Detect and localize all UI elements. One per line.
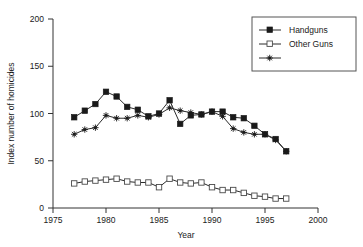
data-point bbox=[92, 124, 98, 130]
data-point bbox=[167, 98, 172, 103]
y-tick-label-200: 200 bbox=[30, 14, 44, 24]
data-point bbox=[283, 148, 289, 154]
data-point bbox=[82, 179, 87, 184]
data-point bbox=[177, 107, 183, 113]
data-point bbox=[251, 131, 257, 137]
data-point bbox=[82, 108, 87, 113]
y-tick-label-50: 50 bbox=[35, 156, 45, 166]
data-point bbox=[114, 176, 119, 181]
y-tick-label-150: 150 bbox=[30, 61, 44, 71]
data-point bbox=[72, 115, 77, 120]
star-icon bbox=[267, 55, 273, 61]
data-point bbox=[252, 193, 257, 198]
series-handguns bbox=[72, 89, 289, 154]
data-point bbox=[145, 114, 151, 120]
y-tick-label-0: 0 bbox=[39, 203, 44, 213]
data-point bbox=[188, 109, 194, 115]
data-point bbox=[178, 121, 183, 126]
open-square-icon bbox=[267, 41, 272, 46]
data-point bbox=[156, 111, 162, 117]
data-point bbox=[231, 115, 236, 120]
x-tick-label-1995: 1995 bbox=[256, 215, 275, 225]
y-axis-title: Index number of homicides bbox=[6, 62, 16, 164]
series-other-guns bbox=[72, 176, 289, 201]
x-tick-label-1990: 1990 bbox=[203, 215, 222, 225]
data-point bbox=[284, 196, 289, 201]
data-point bbox=[209, 185, 214, 190]
x-tick-label-1980: 1980 bbox=[97, 215, 116, 225]
x-tick-label-1985: 1985 bbox=[150, 215, 169, 225]
y-ticks-group: 200 150 100 50 0 bbox=[30, 14, 53, 213]
y-tick-label-100: 100 bbox=[30, 109, 44, 119]
data-point bbox=[272, 137, 278, 143]
data-point bbox=[124, 115, 130, 121]
data-point bbox=[241, 116, 246, 121]
data-point bbox=[273, 196, 278, 201]
data-point bbox=[188, 181, 193, 186]
data-point bbox=[241, 129, 247, 135]
data-point bbox=[198, 111, 204, 117]
data-point bbox=[93, 178, 98, 183]
data-point bbox=[146, 180, 151, 185]
line-chart: 200 150 100 50 0 1975 1980 1985 1990 199… bbox=[0, 0, 363, 247]
data-point bbox=[252, 123, 257, 128]
legend: Handguns Other Guns bbox=[252, 17, 356, 71]
data-point bbox=[72, 181, 77, 186]
data-point bbox=[241, 190, 246, 195]
x-ticks-group: 1975 1980 1985 1990 1995 2000 bbox=[44, 208, 328, 225]
data-point bbox=[135, 112, 141, 118]
data-point bbox=[166, 105, 172, 111]
x-tick-label-1975: 1975 bbox=[44, 215, 63, 225]
filled-square-icon bbox=[267, 27, 272, 32]
data-point bbox=[219, 113, 225, 119]
data-point bbox=[178, 180, 183, 185]
data-point bbox=[125, 179, 130, 184]
data-point bbox=[209, 108, 215, 114]
data-point bbox=[103, 177, 108, 182]
data-point bbox=[114, 94, 119, 99]
data-point bbox=[113, 115, 119, 121]
data-point bbox=[71, 131, 77, 137]
data-point bbox=[230, 125, 236, 131]
data-series-layer bbox=[71, 89, 289, 201]
legend-label-other-guns: Other Guns bbox=[289, 39, 333, 49]
data-point bbox=[82, 126, 88, 132]
data-point bbox=[262, 194, 267, 199]
data-point bbox=[220, 187, 225, 192]
data-point bbox=[167, 176, 172, 181]
chart-container: 200 150 100 50 0 1975 1980 1985 1990 199… bbox=[0, 0, 363, 247]
data-point bbox=[156, 185, 161, 190]
series-non-guns bbox=[71, 105, 289, 155]
x-tick-label-2000: 2000 bbox=[309, 215, 328, 225]
data-point bbox=[135, 180, 140, 185]
data-point bbox=[199, 180, 204, 185]
x-axis-title: Year bbox=[177, 230, 194, 240]
data-point bbox=[262, 131, 268, 137]
data-point bbox=[103, 89, 108, 94]
legend-label-handguns: Handguns bbox=[289, 25, 328, 35]
data-point bbox=[135, 107, 140, 112]
data-point bbox=[93, 101, 98, 106]
data-point bbox=[125, 104, 130, 109]
data-point bbox=[231, 187, 236, 192]
data-point bbox=[103, 112, 109, 118]
